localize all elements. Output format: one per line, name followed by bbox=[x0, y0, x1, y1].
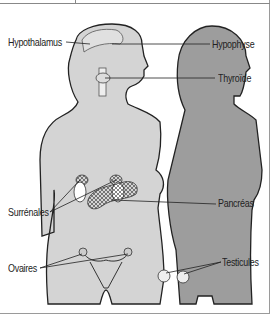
label-hypophyse: Hypophyse bbox=[212, 38, 254, 50]
label-hypothalamus: Hypothalamus bbox=[8, 36, 62, 48]
label-thyroide: Thyroïde bbox=[218, 72, 251, 84]
label-pancreas: Pancréas bbox=[218, 197, 254, 209]
testicle-left bbox=[158, 270, 170, 282]
label-ovaires: Ovaires bbox=[8, 262, 37, 274]
label-testicules: Testicules bbox=[222, 256, 259, 268]
label-surrenales: Surrénales bbox=[8, 206, 49, 218]
